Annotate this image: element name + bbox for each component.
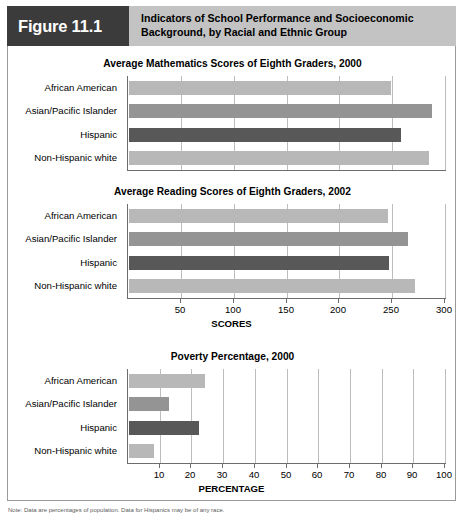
x-tick: [180, 299, 181, 303]
x-tick-label: 300: [436, 304, 452, 315]
chart-plot-area-1: [127, 76, 445, 170]
category-label: Hispanic: [0, 256, 121, 270]
bar: [129, 421, 199, 435]
figure-footnote: Note: Data are percentages of population…: [8, 506, 455, 520]
category-label: Hispanic: [0, 128, 121, 142]
gridline: [287, 369, 288, 463]
bar: [129, 232, 408, 246]
category-label: Non-Hispanic white: [0, 151, 121, 165]
gridline: [445, 369, 446, 463]
bar: [129, 444, 154, 458]
chart-plot-area-2: [127, 204, 445, 298]
x-tick-label: 40: [249, 469, 260, 480]
x-axis-title-2: SCORES: [0, 318, 463, 329]
x-tick-label: 80: [376, 469, 387, 480]
category-label: Asian/Pacific Islander: [0, 232, 121, 246]
category-label: African American: [0, 374, 121, 388]
x-tick-label: 70: [344, 469, 355, 480]
figure-container: Figure 11.1 Indicators of School Perform…: [0, 0, 463, 522]
x-tick: [222, 464, 223, 468]
chart-title-3: Poverty Percentage, 2000: [8, 351, 457, 362]
x-tick: [444, 464, 445, 468]
category-label: Asian/Pacific Islander: [0, 104, 121, 118]
x-tick-label: 200: [330, 304, 346, 315]
bar: [129, 104, 432, 118]
gridline: [445, 204, 446, 298]
x-tick-label: 100: [436, 469, 452, 480]
chart-title-2: Average Reading Scores of Eighth Graders…: [8, 186, 457, 197]
figure-header: Figure 11.1 Indicators of School Perform…: [7, 6, 456, 46]
x-tick-label: 50: [175, 304, 186, 315]
bar: [129, 374, 205, 388]
gridline: [223, 369, 224, 463]
chart-plot-area-3: [127, 369, 445, 463]
chart-title-1: Average Mathematics Scores of Eighth Gra…: [8, 58, 457, 69]
category-label: African American: [0, 81, 121, 95]
category-label: Non-Hispanic white: [0, 279, 121, 293]
category-label: Non-Hispanic white: [0, 444, 121, 458]
x-tick: [190, 464, 191, 468]
x-axis-title-3: PERCENTAGE: [0, 483, 463, 494]
x-tick-label: 60: [312, 469, 323, 480]
x-tick-label: 10: [154, 469, 165, 480]
bar: [129, 209, 388, 223]
x-tick: [444, 299, 445, 303]
x-tick: [391, 299, 392, 303]
bar: [129, 397, 169, 411]
figure-title: Indicators of School Performance and Soc…: [129, 6, 456, 46]
category-label: African American: [0, 209, 121, 223]
bar: [129, 256, 389, 270]
gridline: [318, 369, 319, 463]
x-tick: [317, 464, 318, 468]
x-tick: [254, 464, 255, 468]
x-tick: [349, 464, 350, 468]
figure-number-tag: Figure 11.1: [7, 6, 129, 46]
x-tick-label: 100: [225, 304, 241, 315]
x-tick-label: 20: [185, 469, 196, 480]
x-tick-label: 50: [281, 469, 292, 480]
x-tick: [412, 464, 413, 468]
gridline: [350, 369, 351, 463]
gridline: [413, 369, 414, 463]
x-tick-label: 150: [278, 304, 294, 315]
category-label: Hispanic: [0, 421, 121, 435]
x-tick: [286, 464, 287, 468]
x-tick: [381, 464, 382, 468]
bar: [129, 151, 429, 165]
x-tick-label: 250: [383, 304, 399, 315]
x-tick-label: 90: [407, 469, 418, 480]
x-tick: [159, 464, 160, 468]
x-axis-line-1: [127, 170, 446, 171]
bar: [129, 81, 391, 95]
gridline: [255, 369, 256, 463]
gridline: [382, 369, 383, 463]
x-tick: [233, 299, 234, 303]
bar: [129, 128, 401, 142]
bar: [129, 279, 415, 293]
category-label: Asian/Pacific Islander: [0, 397, 121, 411]
gridline: [445, 76, 446, 170]
x-tick-label: 30: [217, 469, 228, 480]
x-tick: [286, 299, 287, 303]
x-tick: [338, 299, 339, 303]
